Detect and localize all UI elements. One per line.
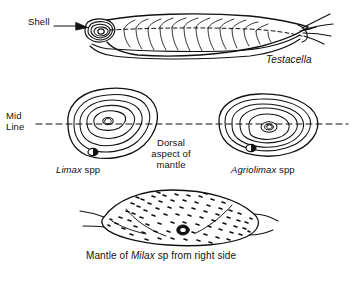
milax-mantle-outline xyxy=(102,190,259,246)
testacella-label: Testacella xyxy=(266,54,312,65)
agriolimax-genus: Agriolimax xyxy=(231,164,276,175)
agriolimax-drawing xyxy=(219,94,318,156)
mid-line-label-line1: Mid xyxy=(6,110,22,121)
milax-pneumostome xyxy=(177,225,189,235)
milax-caption: Mantle of Milax sp from right side xyxy=(86,250,236,261)
milax-drawing xyxy=(80,190,278,246)
testacella-grooves xyxy=(124,18,271,51)
agriolimax-suffix: spp xyxy=(279,164,295,175)
testacella-drawing xyxy=(54,14,333,59)
limax-suffix: spp xyxy=(85,164,101,175)
shell-leader xyxy=(54,23,88,31)
milax-caption-pre: Mantle of xyxy=(86,250,131,261)
testacella-shell xyxy=(85,19,115,42)
dorsal-label-line2: aspect of xyxy=(151,148,190,159)
limax-label: Limax spp xyxy=(56,164,100,175)
dorsal-label-line1: Dorsal xyxy=(157,137,185,148)
milax-caption-post: sp from right side xyxy=(155,250,236,261)
agriolimax-label: Agriolimax spp xyxy=(231,164,295,175)
limax-genus: Limax xyxy=(56,164,82,175)
milax-genus: Milax xyxy=(131,250,155,261)
shell-label: Shell xyxy=(28,16,50,27)
testacella-dorsal-edge xyxy=(107,14,308,27)
agriolimax-centre-nucleus xyxy=(267,125,272,129)
figure-root: Shell Mid Line Dorsal aspect of mantle T… xyxy=(0,0,353,281)
dorsal-aspect-label: Dorsal aspect of mantle xyxy=(140,137,202,170)
testacella-midline xyxy=(110,28,302,36)
limax-centre-nucleus xyxy=(105,119,112,125)
mid-line-label-line2: Line xyxy=(6,121,24,132)
agriolimax-pneumostome xyxy=(246,144,256,151)
limax-pneumostome xyxy=(88,148,98,155)
dorsal-label-line3: mantle xyxy=(156,159,185,170)
mid-line-label: Mid Line xyxy=(6,110,24,132)
